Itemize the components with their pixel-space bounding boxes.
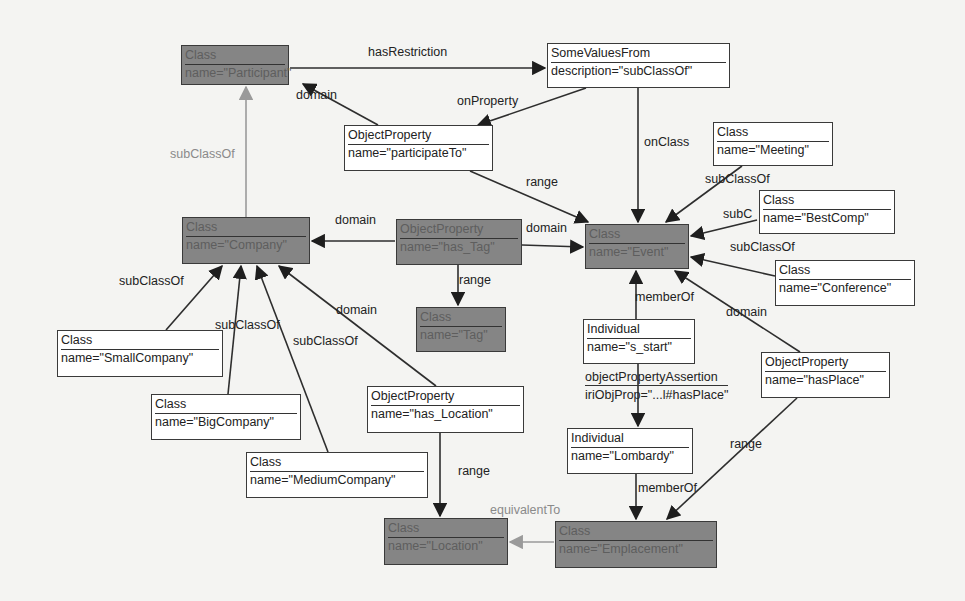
edge-label: domain bbox=[336, 303, 377, 317]
node-type: ObjectProperty bbox=[368, 387, 523, 405]
node-bestcomp[interactable]: Classname="BestComp" bbox=[759, 190, 895, 234]
edge-label: subC bbox=[723, 207, 752, 221]
edge-label: subClassOf bbox=[119, 274, 184, 288]
node-type: ObjectProperty bbox=[397, 220, 521, 238]
edge-label: memberOf bbox=[638, 481, 697, 495]
node-type: SomeValuesFrom bbox=[548, 44, 729, 62]
node-attribute: name="Conference" bbox=[776, 280, 914, 298]
node-attribute: description="subClassOf" bbox=[548, 63, 729, 81]
node-conference[interactable]: Classname="Conference" bbox=[775, 260, 915, 306]
edge-label: range bbox=[730, 437, 762, 451]
edge-label: subClassOf bbox=[170, 147, 235, 161]
node-type: ObjectProperty bbox=[345, 126, 492, 144]
node-smallcompany[interactable]: Classname="SmallCompany" bbox=[57, 330, 223, 377]
edge-label: hasRestriction bbox=[368, 45, 447, 59]
edge-label: range bbox=[459, 273, 491, 287]
node-type: Class bbox=[776, 261, 914, 279]
edge-label: domain bbox=[335, 213, 376, 227]
node-type: Class bbox=[556, 522, 716, 540]
node-hastag[interactable]: ObjectPropertyname="has_Tag" bbox=[396, 219, 522, 265]
edge-label: range bbox=[458, 464, 490, 478]
node-type: Class bbox=[58, 331, 222, 349]
node-bigcompany[interactable]: Classname="BigCompany" bbox=[151, 394, 301, 440]
node-location[interactable]: Classname="Location" bbox=[384, 518, 508, 565]
node-type: ObjectProperty bbox=[762, 353, 889, 371]
node-attribute: name="BigCompany" bbox=[152, 414, 300, 432]
node-attribute: name="Event" bbox=[586, 244, 688, 262]
node-meeting[interactable]: Classname="Meeting" bbox=[713, 122, 833, 166]
edge-arrow bbox=[691, 220, 757, 236]
node-attribute: name="MediumCompany" bbox=[247, 472, 427, 490]
edge-arrow bbox=[279, 266, 436, 386]
object-property-assertion[interactable]: objectPropertyAssertion iriObjProp="...l… bbox=[585, 370, 728, 402]
node-attribute: name="Meeting" bbox=[714, 142, 832, 160]
node-participateTo[interactable]: ObjectPropertyname="participateTo" bbox=[344, 125, 493, 171]
assertion-title: objectPropertyAssertion bbox=[585, 370, 728, 384]
node-attribute: name="hasPlace" bbox=[762, 372, 889, 390]
node-type: Class bbox=[760, 191, 894, 209]
node-type: Class bbox=[183, 218, 309, 236]
assertion-divider bbox=[585, 385, 728, 386]
node-type: Class bbox=[385, 519, 507, 537]
node-type: Class bbox=[714, 123, 832, 141]
edge-label: subClassOf bbox=[293, 334, 358, 348]
node-attribute: name="has_Location" bbox=[368, 406, 523, 424]
edge-label: onClass bbox=[644, 135, 689, 149]
node-type: Class bbox=[586, 225, 688, 243]
edge-label: domain bbox=[296, 88, 337, 102]
node-type: Individual bbox=[568, 429, 692, 447]
edge-label: memberOf bbox=[635, 290, 694, 304]
edge-arrow bbox=[522, 245, 583, 247]
node-type: Individual bbox=[584, 320, 694, 338]
node-attribute: name="SmallCompany" bbox=[58, 350, 222, 368]
edge-label: subClassOf bbox=[730, 240, 795, 254]
edge-label: range bbox=[526, 175, 558, 189]
node-hasplace[interactable]: ObjectPropertyname="hasPlace" bbox=[761, 352, 890, 398]
node-type: Class bbox=[247, 453, 427, 471]
node-haslocation[interactable]: ObjectPropertyname="has_Location" bbox=[367, 386, 524, 433]
node-type: Class bbox=[182, 46, 288, 64]
assertion-value: iriObjProp="...l#hasPlace" bbox=[585, 388, 728, 402]
edge-label: domain bbox=[526, 221, 567, 235]
node-s_start[interactable]: Individualname="s_start" bbox=[583, 319, 695, 364]
edge-label: subClassOf bbox=[705, 172, 770, 186]
node-emplacement[interactable]: Classname="Emplacement" bbox=[555, 521, 717, 568]
node-attribute: name="Participant" bbox=[182, 65, 288, 83]
edge-label: onProperty bbox=[457, 94, 518, 108]
node-tag[interactable]: Classname="Tag" bbox=[416, 307, 506, 352]
node-attribute: name="Emplacement" bbox=[556, 541, 716, 559]
edge-label: equivalentTo bbox=[490, 503, 560, 517]
node-lombardy[interactable]: Individualname="Lombardy" bbox=[567, 428, 693, 474]
node-somevalues[interactable]: SomeValuesFromdescription="subClassOf" bbox=[547, 43, 730, 88]
node-attribute: name="has_Tag" bbox=[397, 239, 521, 257]
edge-label: subClassOf bbox=[215, 318, 280, 332]
node-attribute: name="Location" bbox=[385, 538, 507, 556]
node-type: Class bbox=[417, 308, 505, 326]
edge-label: domain bbox=[726, 305, 767, 319]
node-event[interactable]: Classname="Event" bbox=[585, 224, 689, 269]
node-attribute: name="Tag" bbox=[417, 327, 505, 345]
node-mediumcompany[interactable]: Classname="MediumCompany" bbox=[246, 452, 428, 498]
edge-arrow bbox=[691, 257, 775, 276]
node-company[interactable]: Classname="Company" bbox=[182, 217, 310, 264]
node-type: Class bbox=[152, 395, 300, 413]
node-attribute: name="Lombardy" bbox=[568, 448, 692, 466]
node-attribute: name="participateTo" bbox=[345, 145, 492, 163]
node-attribute: name="BestComp" bbox=[760, 210, 894, 228]
node-attribute: name="Company" bbox=[183, 237, 309, 255]
node-attribute: name="s_start" bbox=[584, 339, 694, 357]
node-participant[interactable]: Classname="Participant" bbox=[181, 45, 289, 85]
